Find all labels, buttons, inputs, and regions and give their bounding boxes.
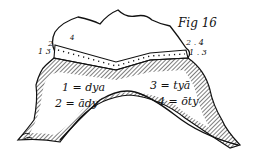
figure-16: Fig 16 4 2 1 3 2 . 4 1 . 3 1 = dya 2 = ā… [0, 0, 261, 161]
upper-shape-outline [55, 10, 186, 48]
left-marker-low: 1 3 [38, 48, 51, 56]
right-marker-bottom: 1 . 3 [189, 49, 207, 57]
figure-title: Fig 16 [178, 17, 217, 29]
legend-item-4: 4 = ōty [158, 96, 198, 107]
legend-item-1: 1 = dya [62, 82, 105, 93]
figure-drawing [0, 0, 261, 161]
right-marker-top: 2 . 4 [186, 39, 204, 47]
legend-item-2: 2 = ādy [55, 98, 98, 109]
left-marker-top: 4 [70, 35, 74, 42]
legend-item-3: 3 = tyā [150, 80, 190, 91]
